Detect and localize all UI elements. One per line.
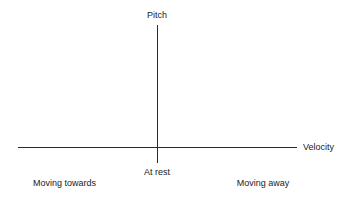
annotation-moving-towards-line-1: Moving towards (10, 178, 96, 189)
y-axis-line (157, 25, 158, 163)
annotation-at-rest: At rest (127, 167, 187, 178)
doppler-pitch-velocity-diagram: Pitch Velocity Moving towards you At res… (0, 0, 360, 198)
y-axis-label: Pitch (107, 10, 207, 21)
annotation-moving-towards-you: Moving towards you (10, 156, 96, 198)
annotation-moving-away-from-you: Moving away from you (222, 156, 304, 198)
annotation-moving-away-line-1: Moving away (222, 178, 304, 189)
x-axis-label: Velocity (303, 142, 334, 153)
